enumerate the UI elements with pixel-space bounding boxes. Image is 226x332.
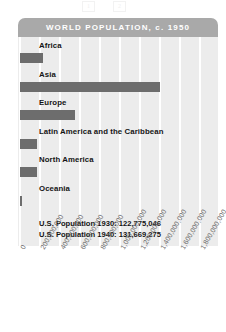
bar-category-label: Latin America and the Caribbean: [39, 127, 164, 136]
bar: [20, 167, 37, 177]
bar: [20, 110, 75, 120]
bar-category-label: Asia: [39, 70, 56, 79]
world-population-chart: WORLD POPULATION, c. 1950 AfricaAsiaEuro…: [18, 18, 218, 246]
scan-artifacts: 1 2: [0, 0, 226, 16]
bar-category-label: Europe: [39, 98, 66, 107]
bar: [20, 139, 37, 149]
chart-title: WORLD POPULATION, c. 1950: [18, 18, 218, 37]
chart-title-bar: WORLD POPULATION, c. 1950: [18, 18, 218, 37]
bar: [20, 196, 22, 206]
bar: [20, 82, 160, 92]
bar-category-label: Oceania: [39, 184, 70, 193]
bar-category-label: Africa: [39, 41, 62, 50]
scan-artifact-mark-b: 2: [113, 1, 126, 12]
bar: [20, 53, 43, 63]
x-axis-tick-labels: 0200,000,000400,000,000600,000,000800,00…: [0, 247, 226, 332]
scan-artifact-mark-a: 1: [82, 1, 95, 12]
bar-category-label: North America: [39, 155, 94, 164]
